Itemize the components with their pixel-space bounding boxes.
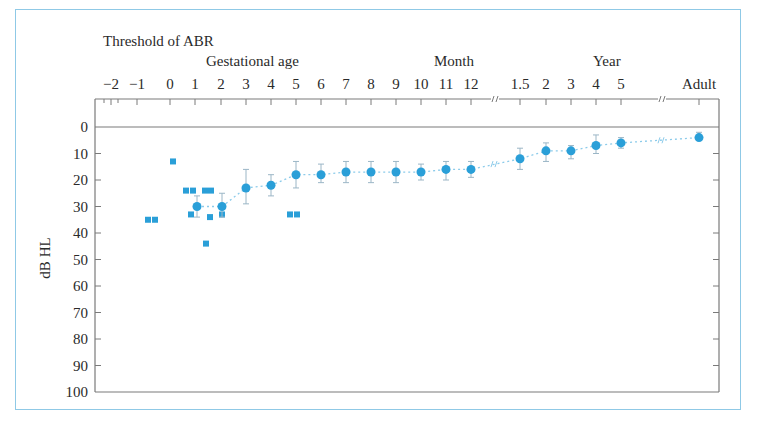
x-tick-label: 2 xyxy=(217,76,225,92)
square-marker xyxy=(294,211,300,217)
x-tick-label: 10 xyxy=(414,76,429,92)
plot-area xyxy=(145,132,704,246)
x-tick-label: −1 xyxy=(129,76,145,92)
axis-break-icon xyxy=(492,96,498,102)
square-marker xyxy=(207,214,213,220)
x-tick-label: 1.5 xyxy=(511,76,530,92)
x-group-year: Year xyxy=(593,53,621,69)
mean-marker xyxy=(617,138,626,147)
square-marker xyxy=(188,211,194,217)
x-tick-label: 11 xyxy=(439,76,453,92)
x-tick-labels: −2−101234567891011121.52345Adult xyxy=(103,76,717,92)
y-tick-label: 60 xyxy=(73,278,88,294)
x-tick-label: 3 xyxy=(242,76,250,92)
mean-marker xyxy=(467,165,476,174)
x-tick-label: Adult xyxy=(682,76,717,92)
mean-marker xyxy=(267,181,276,190)
mean-marker xyxy=(542,146,551,155)
x-tick-label: 0 xyxy=(166,76,174,92)
y-tick-label: 10 xyxy=(73,146,88,162)
y-tick-label: 0 xyxy=(81,119,89,135)
y-tick-labels: 0102030405060708090100 xyxy=(66,119,89,400)
y-tick-label: 30 xyxy=(73,199,88,215)
x-tick-label: 4 xyxy=(592,76,600,92)
x-tick-label: 5 xyxy=(617,76,625,92)
x-tick-label: 4 xyxy=(267,76,275,92)
mean-marker xyxy=(516,154,525,163)
x-tick-label: 8 xyxy=(367,76,375,92)
mean-marker xyxy=(242,183,251,192)
abr-threshold-chart: Threshold of ABR Gestational age Month Y… xyxy=(0,0,757,425)
x-tick-label: 9 xyxy=(392,76,400,92)
mean-marker xyxy=(218,202,227,211)
mean-marker xyxy=(193,202,202,211)
x-tick-label: 3 xyxy=(567,76,575,92)
y-tick-label: 80 xyxy=(73,331,88,347)
mean-marker xyxy=(392,168,401,177)
x-tick-label: 6 xyxy=(317,76,325,92)
y-tick-label: 20 xyxy=(73,172,88,188)
square-marker xyxy=(183,188,189,194)
x-group-gestational-age: Gestational age xyxy=(206,53,299,69)
y-tick-label: 90 xyxy=(73,358,88,374)
mean-marker xyxy=(442,165,451,174)
square-marker xyxy=(203,241,209,247)
x-tick-label: 2 xyxy=(542,76,550,92)
mean-marker xyxy=(695,133,704,142)
y-tick-label: 50 xyxy=(73,252,88,268)
square-marker xyxy=(190,188,196,194)
y-tick-label: 40 xyxy=(73,225,88,241)
square-marker xyxy=(202,188,208,194)
y-axis-label: dB HL xyxy=(37,237,53,278)
chart-title: Threshold of ABR xyxy=(103,33,214,49)
mean-marker xyxy=(567,146,576,155)
mean-marker xyxy=(592,141,601,150)
y-tick-label: 100 xyxy=(66,384,89,400)
x-tick-label: −2 xyxy=(103,76,119,92)
square-marker xyxy=(145,217,151,223)
axis-break-icon xyxy=(659,96,665,102)
mean-marker xyxy=(342,168,351,177)
mean-marker xyxy=(317,170,326,179)
x-tick-label: 7 xyxy=(342,76,350,92)
mean-marker xyxy=(292,170,301,179)
x-tick-label: 12 xyxy=(464,76,479,92)
y-tick-label: 70 xyxy=(73,305,88,321)
x-group-month: Month xyxy=(434,53,475,69)
mean-marker xyxy=(417,168,426,177)
mean-marker xyxy=(367,168,376,177)
square-marker xyxy=(287,211,293,217)
x-tick-label: 5 xyxy=(292,76,300,92)
axes xyxy=(95,96,719,392)
square-marker xyxy=(208,188,214,194)
square-marker xyxy=(152,217,158,223)
square-marker xyxy=(170,158,176,164)
x-tick-label: 1 xyxy=(191,76,199,92)
